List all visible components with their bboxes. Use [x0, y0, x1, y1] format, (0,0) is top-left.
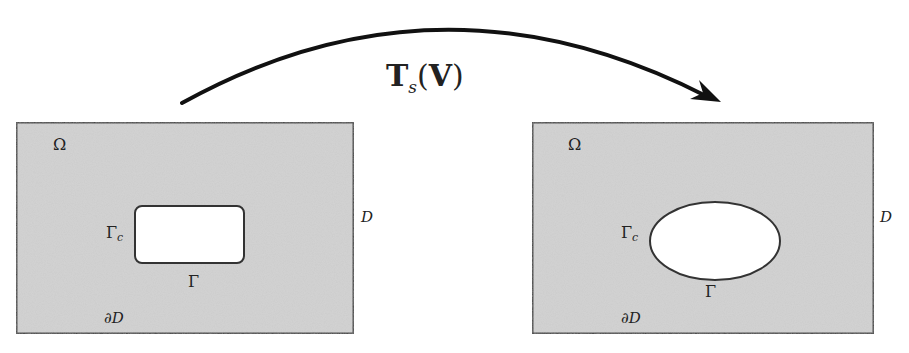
left-hole-rounded-rect — [135, 206, 244, 263]
left-panel: Ω Γc Γ D ∂D — [17, 123, 374, 334]
left-gamma-label: Γ — [188, 272, 199, 291]
shape-transformation-diagram: Ts(V) Ω Γc Γ D ∂D Ω Γc Γ D ∂D — [0, 0, 909, 353]
right-boundary-label: ∂D — [621, 309, 641, 327]
right-omega-label: Ω — [568, 135, 581, 154]
left-boundary-label: ∂D — [104, 309, 124, 327]
right-D-label: D — [879, 208, 892, 226]
left-omega-label: Ω — [53, 135, 66, 154]
left-D-label: D — [360, 208, 373, 226]
right-hole-ellipse — [650, 202, 780, 280]
right-panel: Ω Γc Γ D ∂D — [533, 123, 893, 334]
right-gamma-label: Γ — [705, 282, 716, 301]
transform-label: Ts(V) — [386, 58, 464, 97]
